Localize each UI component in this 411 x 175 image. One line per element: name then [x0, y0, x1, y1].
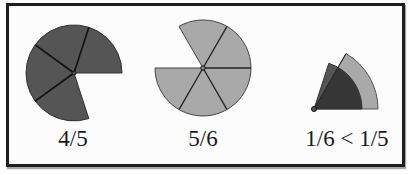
- label-four-fifths: 4/5: [58, 126, 87, 152]
- label-comparison: 1/6 < 1/5: [305, 126, 388, 152]
- pie-five-sixths: [155, 20, 251, 116]
- label-five-sixths: 5/6: [188, 126, 217, 152]
- sector-comparison: [312, 54, 379, 112]
- pie-four-fifths: [26, 25, 122, 121]
